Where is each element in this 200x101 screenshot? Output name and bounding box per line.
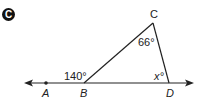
segment-BC xyxy=(84,23,153,83)
point-A-dot xyxy=(44,81,48,85)
triangle-diagram: C A B D 140° 66° x° xyxy=(0,0,200,101)
label-point-B: B xyxy=(80,87,87,99)
label-angle-140: 140° xyxy=(64,70,87,82)
label-point-D: D xyxy=(166,87,174,99)
label-point-C: C xyxy=(150,8,158,20)
label-angle-x: x° xyxy=(153,70,165,82)
label-angle-66: 66° xyxy=(138,36,155,48)
label-point-A: A xyxy=(41,87,49,99)
